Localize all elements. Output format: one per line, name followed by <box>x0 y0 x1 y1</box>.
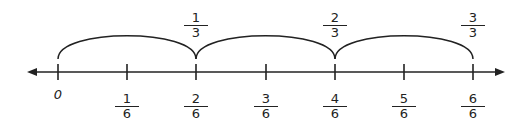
tick-label-5-6: 5 6 <box>392 92 416 121</box>
arc-third-1 <box>58 36 196 59</box>
tick-label-3-6: 3 6 <box>254 92 278 121</box>
tick-label-2-6: 2 6 <box>184 92 208 121</box>
top-label-1-3: 1 3 <box>184 11 208 40</box>
left-arrow-icon <box>27 68 37 76</box>
tick-label-6-6: 6 6 <box>461 92 485 121</box>
right-arrow-icon <box>495 68 505 76</box>
top-label-3-3: 3 3 <box>461 11 485 40</box>
top-label-2-3: 2 3 <box>323 11 347 40</box>
arc-third-3 <box>335 36 473 59</box>
tick-label-1-6: 1 6 <box>115 92 139 121</box>
arcs <box>58 36 473 59</box>
arc-third-2 <box>196 36 335 59</box>
tick-label-4-6: 4 6 <box>323 92 347 121</box>
tick-label-0: 0 <box>46 88 70 102</box>
